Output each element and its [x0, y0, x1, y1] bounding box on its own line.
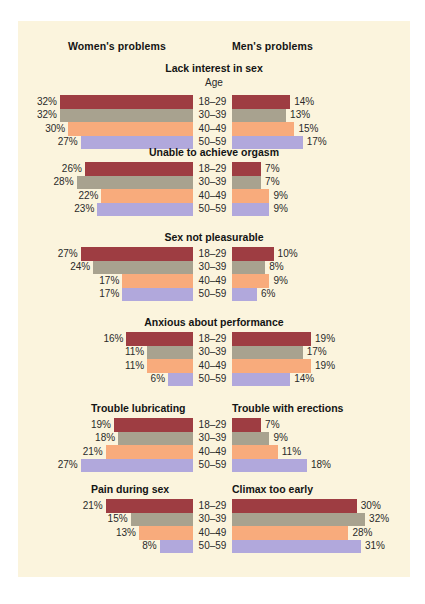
value-label-women-unable-orgasm-1: 28%	[54, 175, 77, 189]
bar-row: 30%40–4915%	[18, 122, 410, 136]
value-label-women-sex-not-pleasurable-1: 24%	[70, 260, 93, 274]
age-label-lubricating-erections-3: 50–59	[193, 458, 232, 472]
section-title-sex-not-pleasurable: Sex not pleasurable	[18, 231, 410, 243]
value-label-men-pain-climax-1: 32%	[365, 512, 389, 526]
bar-women-anxious-performance-1	[147, 346, 193, 360]
age-label-sex-not-pleasurable-0: 18–29	[193, 247, 232, 261]
age-label-unable-orgasm-0: 18–29	[193, 162, 232, 176]
age-label-sex-not-pleasurable-1: 30–39	[193, 260, 232, 274]
bar-row: 32%30–3913%	[18, 109, 410, 123]
bar-men-unable-orgasm-0	[232, 162, 261, 176]
bar-row: 17%50–596%	[18, 288, 410, 302]
bar-women-unable-orgasm-0	[85, 162, 193, 176]
figure-root: Women's problems Men's problems Lack int…	[0, 0, 425, 604]
value-label-women-unable-orgasm-2: 22%	[78, 189, 101, 203]
section-title-left-lubricating-erections: Trouble lubricating	[91, 402, 186, 414]
section-title-right-lubricating-erections: Trouble with erections	[232, 402, 343, 414]
bar-women-unable-orgasm-2	[101, 189, 193, 203]
age-label-lubricating-erections-1: 30–39	[193, 431, 232, 445]
bar-rows-unable-orgasm: 26%18–297%28%30–397%22%40–499%23%50–599%	[18, 162, 410, 216]
bar-rows-lubricating-erections: 19%18–297%18%30–399%21%40–4911%27%50–591…	[18, 418, 410, 472]
bar-women-lack-interest-1	[60, 109, 193, 123]
bar-rows-lack-interest: 32%18–2914%32%30–3913%30%40–4915%27%50–5…	[18, 95, 410, 149]
bar-women-sex-not-pleasurable-2	[122, 274, 193, 288]
value-label-men-unable-orgasm-3: 9%	[269, 202, 287, 216]
bar-women-pain-climax-0	[106, 499, 193, 513]
value-label-women-anxious-performance-1: 11%	[125, 345, 147, 359]
bar-women-unable-orgasm-3	[97, 203, 193, 217]
value-label-men-sex-not-pleasurable-1: 8%	[265, 260, 283, 274]
bar-men-pain-climax-3	[232, 540, 361, 554]
bar-men-pain-climax-2	[232, 526, 348, 540]
value-label-women-anxious-performance-3: 6%	[151, 372, 168, 386]
group-headings-row: Women's problems Men's problems	[18, 40, 410, 56]
bar-men-pain-climax-1	[232, 513, 365, 527]
bar-women-lubricating-erections-0	[114, 418, 193, 432]
bar-row: 15%30–3932%	[18, 513, 410, 527]
bar-men-lubricating-erections-1	[232, 432, 269, 446]
value-label-men-unable-orgasm-0: 7%	[261, 162, 279, 176]
bar-men-pain-climax-0	[232, 499, 357, 513]
value-label-men-anxious-performance-3: 14%	[290, 372, 314, 386]
age-label-sex-not-pleasurable-3: 50–59	[193, 287, 232, 301]
value-label-men-pain-climax-3: 31%	[361, 539, 385, 553]
bar-men-lubricating-erections-3	[232, 459, 307, 473]
bar-row: 19%18–297%	[18, 418, 410, 432]
value-label-women-pain-climax-0: 21%	[83, 499, 106, 513]
bar-women-anxious-performance-0	[126, 332, 193, 346]
group-heading-women: Women's problems	[68, 40, 166, 52]
bar-women-unable-orgasm-1	[77, 176, 193, 190]
bar-row: 23%50–599%	[18, 203, 410, 217]
value-label-men-anxious-performance-1: 17%	[303, 345, 327, 359]
bar-men-lubricating-erections-2	[232, 445, 278, 459]
bar-row: 21%18–2930%	[18, 499, 410, 513]
bar-rows-pain-climax: 21%18–2930%15%30–3932%13%40–4928%8%50–59…	[18, 499, 410, 553]
value-label-men-lubricating-erections-0: 7%	[261, 418, 279, 432]
value-label-women-pain-climax-1: 15%	[108, 512, 131, 526]
age-label-lack-interest-0: 18–29	[193, 95, 232, 109]
bar-row: 28%30–397%	[18, 176, 410, 190]
bar-row: 27%18–2910%	[18, 247, 410, 261]
age-label-pain-climax-2: 40–49	[193, 526, 232, 540]
bar-men-lack-interest-2	[232, 122, 294, 136]
bar-row: 13%40–4928%	[18, 526, 410, 540]
bar-women-lack-interest-2	[68, 122, 193, 136]
bar-men-anxious-performance-2	[232, 359, 311, 373]
bar-men-unable-orgasm-3	[232, 203, 269, 217]
bar-row: 16%18–2919%	[18, 332, 410, 346]
value-label-women-pain-climax-2: 13%	[116, 526, 139, 540]
bar-men-anxious-performance-0	[232, 332, 311, 346]
bar-women-lubricating-erections-1	[118, 432, 193, 446]
age-label-sex-not-pleasurable-2: 40–49	[193, 274, 232, 288]
bar-women-lack-interest-0	[60, 95, 193, 109]
age-label-anxious-performance-2: 40–49	[193, 359, 232, 373]
bar-row: 6%50–5914%	[18, 373, 410, 387]
bar-men-lubricating-erections-0	[232, 418, 261, 432]
value-label-men-unable-orgasm-2: 9%	[269, 189, 287, 203]
value-label-women-lack-interest-1: 32%	[37, 108, 60, 122]
chart-panel: Women's problems Men's problems Lack int…	[18, 21, 410, 577]
bar-men-sex-not-pleasurable-1	[232, 261, 265, 275]
section-title-anxious-performance: Anxious about performance	[18, 316, 410, 328]
age-label-unable-orgasm-2: 40–49	[193, 189, 232, 203]
bar-row: 24%30–398%	[18, 261, 410, 275]
value-label-women-sex-not-pleasurable-0: 27%	[58, 247, 81, 261]
bar-men-anxious-performance-3	[232, 373, 290, 387]
value-label-men-sex-not-pleasurable-0: 10%	[274, 247, 298, 261]
bar-women-sex-not-pleasurable-1	[93, 261, 193, 275]
value-label-men-sex-not-pleasurable-2: 9%	[269, 274, 287, 288]
bar-row: 32%18–2914%	[18, 95, 410, 109]
section-title-left-pain-climax: Pain during sex	[91, 483, 169, 495]
bar-men-anxious-performance-1	[232, 346, 303, 360]
section-title-right-pain-climax: Climax too early	[232, 483, 313, 495]
bar-row: 11%30–3917%	[18, 346, 410, 360]
value-label-women-sex-not-pleasurable-2: 17%	[99, 274, 122, 288]
bar-men-sex-not-pleasurable-0	[232, 247, 274, 261]
bar-row: 27%50–5918%	[18, 459, 410, 473]
value-label-men-lack-interest-2: 15%	[294, 122, 318, 136]
section-title-unable-orgasm: Unable to achieve orgasm	[18, 146, 410, 158]
bar-women-anxious-performance-2	[147, 359, 193, 373]
age-label-lubricating-erections-0: 18–29	[193, 418, 232, 432]
value-label-men-pain-climax-0: 30%	[357, 499, 381, 513]
bar-men-unable-orgasm-2	[232, 189, 269, 203]
